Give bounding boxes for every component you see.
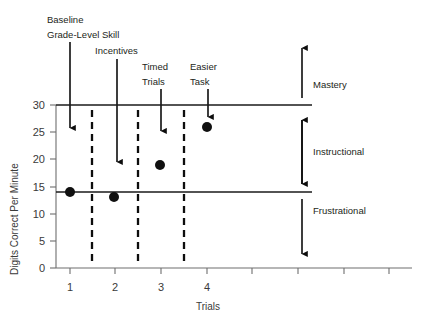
y-tick-label-0: 0 (39, 262, 45, 274)
x-tick-label-1: 1 (67, 281, 73, 293)
y-axis-title: Digits Correct Per Minute (9, 163, 20, 275)
annotation-baseline: Baseline Grade-Level Skill (47, 14, 119, 128)
zone-frustrational: Frustrational (302, 199, 366, 254)
annotation-timed-trials-line2: Trials (142, 76, 165, 87)
scatter-chart: Baseline Grade-Level Skill Incentives Ti… (0, 0, 441, 328)
annotation-baseline-line2: Grade-Level Skill (47, 29, 119, 40)
annotation-easier-task: Easier Task (190, 61, 217, 117)
x-tick-label-3: 3 (158, 281, 164, 293)
y-tick-label-25: 25 (33, 126, 45, 138)
y-tick-label-15: 15 (33, 181, 45, 193)
zone-label-instructional: Instructional (313, 146, 364, 157)
x-axis: 1 2 3 4 Trials (56, 268, 412, 312)
y-tick-label-20: 20 (33, 153, 45, 165)
y-axis: 30 25 20 15 10 5 0 Digits Correct Per Mi… (9, 99, 56, 275)
annotation-timed-trials-line1: Timed (142, 61, 168, 72)
annotation-easier-task-line1: Easier (190, 61, 217, 72)
zone-label-mastery: Mastery (313, 79, 347, 90)
x-axis-title: Trials (196, 301, 220, 312)
data-point (109, 192, 119, 202)
zone-label-frustrational: Frustrational (313, 205, 366, 216)
annotation-easier-task-line2: Task (190, 76, 210, 87)
annotation-incentives-line1: Incentives (95, 45, 138, 56)
x-tick-label-2: 2 (112, 281, 118, 293)
annotation-incentives: Incentives (95, 45, 138, 162)
zone-mastery: Mastery (302, 48, 347, 98)
y-tick-label-5: 5 (39, 235, 45, 247)
y-tick-label-30: 30 (33, 99, 45, 111)
x-tick-label-4: 4 (204, 281, 210, 293)
annotation-timed-trials: Timed Trials (142, 61, 168, 131)
data-point (202, 122, 212, 132)
zone-instructional: Instructional (302, 120, 364, 184)
annotation-baseline-line1: Baseline (47, 14, 83, 25)
chart-canvas: Baseline Grade-Level Skill Incentives Ti… (0, 0, 441, 328)
y-tick-label-10: 10 (33, 208, 45, 220)
data-point (155, 160, 165, 170)
data-point (65, 187, 75, 197)
